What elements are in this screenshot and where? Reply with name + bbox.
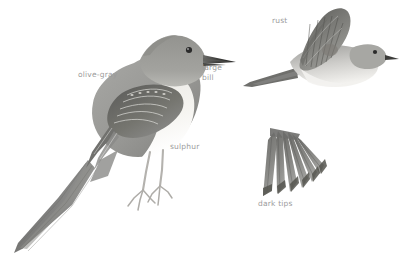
label-large-bill: largebill <box>202 63 222 82</box>
perched-bird-head <box>140 35 206 86</box>
flying-bird <box>243 8 399 87</box>
label-large-bill-line1: large <box>202 63 222 72</box>
flying-bird-head <box>350 44 387 69</box>
field-guide-plate <box>0 0 399 258</box>
label-olive-gray: olive-gray <box>78 70 117 80</box>
spread-tail-specimen <box>263 128 327 196</box>
perched-bird-feet <box>128 186 172 210</box>
perched-bird-eye <box>186 47 192 53</box>
label-sulphur: sulphur <box>170 142 200 152</box>
flying-bird-tail <box>243 68 298 87</box>
flying-bird-eye <box>373 50 377 54</box>
label-dark-tips: dark tips <box>258 199 293 209</box>
label-rust: rust <box>272 16 288 26</box>
label-large-bill-line2: bill <box>202 73 214 82</box>
perched-bird-tail <box>14 150 118 253</box>
flying-bird-bill <box>385 55 399 60</box>
